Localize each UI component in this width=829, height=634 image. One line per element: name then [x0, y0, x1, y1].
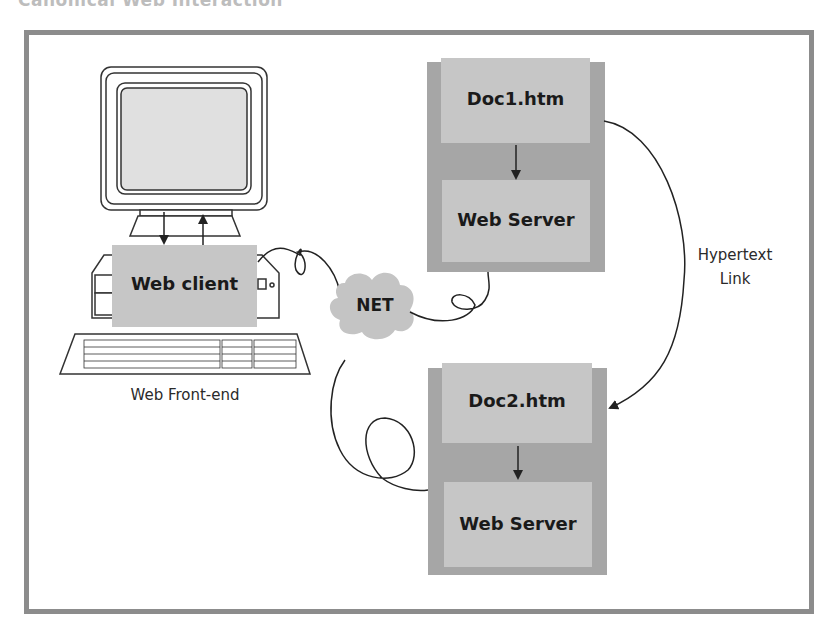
diagram-canvas [0, 0, 829, 634]
hypertext-link-label-line2: Link [690, 270, 780, 288]
server2-server-label: Web Server [444, 513, 592, 534]
server1-doc-label: Doc1.htm [441, 88, 590, 109]
hypertext-link-label-line1: Hypertext [690, 246, 780, 264]
server2-doc-label: Doc2.htm [442, 390, 592, 411]
net-label: NET [345, 295, 405, 315]
web-client-label: Web client [112, 273, 257, 294]
monitor-icon [101, 67, 267, 236]
cable-net-server2 [331, 360, 428, 491]
hypertext-link-arrow [604, 121, 685, 408]
keyboard-icon [60, 334, 310, 374]
server1-server-label: Web Server [442, 209, 590, 230]
web-front-end-caption: Web Front-end [110, 386, 260, 404]
cable-net-server1 [410, 272, 489, 321]
